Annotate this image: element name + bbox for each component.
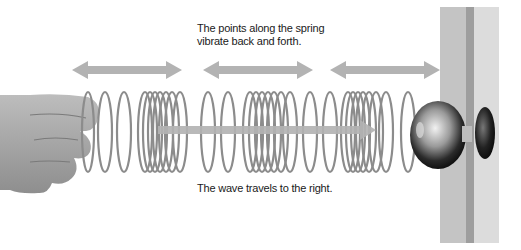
oscillation-arrows xyxy=(72,61,440,79)
propagation-caption: The wave travels to the right. xyxy=(197,182,357,195)
double-arrow-icon xyxy=(72,61,182,79)
double-arrow-icon xyxy=(203,61,313,79)
vibration-caption: The points along the spring vibrate back… xyxy=(197,22,347,48)
double-arrow-icon xyxy=(330,61,440,79)
vibration-caption-line1: The points along the spring xyxy=(197,22,347,35)
vibration-caption-line2: vibrate back and forth. xyxy=(197,35,347,48)
